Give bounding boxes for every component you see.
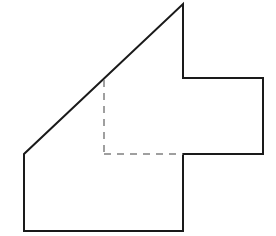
dashed-division-lines (104, 80, 183, 154)
shape-outline (24, 4, 263, 231)
composite-shape-figure (0, 0, 276, 236)
diagram-canvas (0, 0, 276, 236)
